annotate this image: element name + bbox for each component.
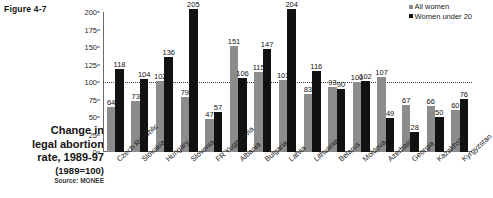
x-label-cell: Moldova [349, 153, 374, 198]
bar: 50 [435, 117, 444, 152]
y-tick-label-50: 50 [89, 113, 97, 122]
y-tick-mark-0 [97, 152, 100, 153]
legend-item-all-women: All women [409, 2, 472, 12]
bar: 118 [115, 69, 124, 152]
y-tick-label-75: 75 [89, 95, 97, 104]
bar-value-label: 28 [411, 123, 419, 132]
bar-value-label: 66 [427, 97, 435, 106]
bar-value-label: 64 [107, 98, 115, 107]
bar-value-label: 76 [460, 90, 468, 99]
bar-value-label: 47 [205, 110, 213, 119]
x-label-cell: Slovenia [177, 153, 202, 198]
y-tick-mark-175 [97, 29, 100, 30]
bar: 136 [164, 57, 173, 152]
bar-value-label: 83 [304, 85, 312, 94]
y-tick-label-25: 25 [89, 130, 97, 139]
bar-value-label: 151 [228, 37, 241, 46]
y-tick-label-100: 100 [84, 78, 97, 87]
x-axis-labels: Czech RepublicSlovakiaHungarySloveniaFR … [103, 153, 472, 198]
x-label-cell: Czech Republic [103, 153, 128, 198]
y-tick-mark-25 [97, 134, 100, 135]
x-label-cell: Albania [226, 153, 251, 198]
bar-group: 83116 [300, 12, 325, 152]
bar-groups: 6411873104102136792054757151106115147103… [103, 12, 472, 152]
y-axis: 0255075100125150175200 [75, 12, 101, 152]
x-label-cell: FR Yugoslavia [201, 153, 226, 198]
bar-value-label: 93 [328, 78, 336, 87]
bar: 102 [361, 81, 370, 152]
bar-value-label: 67 [402, 96, 410, 105]
x-label-cell: Hungary [152, 153, 177, 198]
bar-group: 10749 [374, 12, 399, 152]
bar-group: 79205 [177, 12, 202, 152]
bar-group: 9390 [324, 12, 349, 152]
y-tick-mark-100 [97, 82, 100, 83]
bar-value-label: 73 [131, 92, 139, 101]
bar-group: 4757 [201, 12, 226, 152]
bar-value-label: 50 [435, 108, 443, 117]
bar-value-label: 107 [375, 68, 388, 77]
plot-area: 0255075100125150175200 64118731041021367… [103, 12, 472, 152]
x-label-cell: Kazakhstan [423, 153, 448, 198]
bar: 205 [189, 9, 198, 153]
bar-value-label: 79 [181, 88, 189, 97]
bar-value-label: 102 [359, 72, 372, 81]
y-tick-mark-125 [97, 64, 100, 65]
bar-group: 6076 [447, 12, 472, 152]
legend-label-all-women: All women [415, 2, 450, 12]
x-label-cell: Lithuania [300, 153, 325, 198]
bar-group: 64118 [103, 12, 128, 152]
y-tick-mark-200 [97, 12, 100, 13]
bar-group: 103204 [275, 12, 300, 152]
bar-value-label: 136 [162, 48, 175, 57]
bar: 204 [287, 9, 296, 152]
caption-subtitle: (1989=100) [0, 165, 104, 177]
bar-value-label: 106 [236, 69, 249, 78]
bar-value-label: 205 [187, 0, 200, 9]
bar-value-label: 204 [285, 0, 298, 9]
x-label-cell: Azerbaijan [374, 153, 399, 198]
x-label-cell: Bulgaria [251, 153, 276, 198]
y-tick-mark-150 [97, 47, 100, 48]
y-tick-label-200: 200 [84, 8, 97, 17]
bar-value-label: 116 [310, 62, 322, 71]
bar-value-label: 118 [114, 60, 126, 69]
bar-group: 6650 [423, 12, 448, 152]
bar-group: 6728 [398, 12, 423, 152]
bar: 147 [263, 49, 272, 152]
bar: 57 [214, 112, 223, 152]
bar-value-label: 57 [214, 103, 222, 112]
bar: 64 [107, 107, 116, 152]
y-tick-mark-75 [97, 99, 100, 100]
x-label-cell: Latvia [275, 153, 300, 198]
y-tick-label-150: 150 [84, 43, 97, 52]
y-tick-mark-50 [97, 117, 100, 118]
x-label-cell: Georgia [398, 153, 423, 198]
bar-group: 100102 [349, 12, 374, 152]
bar-value-label: 90 [337, 80, 345, 89]
bar-value-label: 49 [386, 109, 394, 118]
figure-number: Figure 4-7 [4, 4, 47, 14]
x-label-cell: Belarus [324, 153, 349, 198]
bar: 49 [386, 118, 395, 152]
caption-source: Source: MONEE [0, 177, 104, 185]
bar-value-label: 104 [138, 70, 151, 79]
y-tick-label-125: 125 [84, 60, 97, 69]
y-tick-label-175: 175 [84, 25, 97, 34]
bar-value-label: 60 [451, 101, 459, 110]
legend-swatch-all-women [409, 5, 413, 9]
x-label-cell: Slovakia [128, 153, 153, 198]
bar: 83 [304, 94, 313, 152]
x-label-cell: Kyrgyzstan [447, 153, 472, 198]
bar-value-label: 147 [261, 40, 274, 49]
bar: 116 [312, 71, 321, 152]
